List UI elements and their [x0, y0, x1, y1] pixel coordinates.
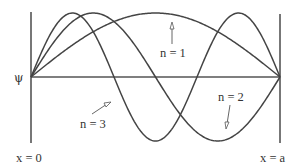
arrowhead-n1-icon	[170, 22, 174, 29]
label-n3: n = 3	[80, 117, 106, 131]
arrow-n2-icon	[227, 105, 230, 124]
label-n1: n = 1	[160, 46, 186, 60]
y-axis-label: ψ	[14, 71, 23, 85]
arrowhead-n3-icon	[104, 102, 111, 107]
left-wall-label: x = 0	[16, 151, 42, 165]
wavefunction-diagram: n = 1 n = 3 n = 2 ψ x = 0 x = a	[0, 0, 302, 167]
curve-n1	[31, 13, 280, 77]
label-n2: n = 2	[218, 90, 244, 104]
label-n2-group: n = 2	[218, 90, 244, 129]
right-wall-label: x = a	[260, 151, 286, 165]
label-n3-group: n = 3	[80, 102, 111, 131]
arrowhead-n2-icon	[225, 122, 229, 129]
label-n1-group: n = 1	[160, 22, 186, 60]
arrow-n3-icon	[92, 104, 107, 114]
